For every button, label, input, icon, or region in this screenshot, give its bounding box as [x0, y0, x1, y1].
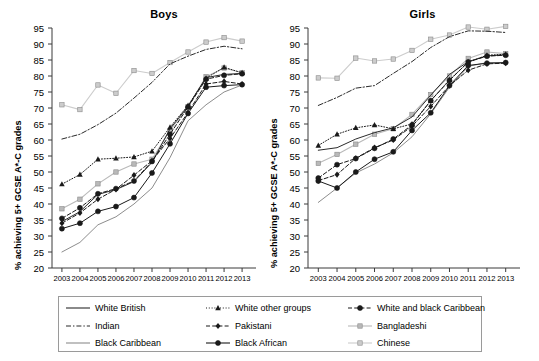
data-point-marker	[503, 24, 507, 28]
data-point-marker	[59, 216, 64, 221]
data-point-marker	[150, 159, 155, 164]
legend-label: Black Caribbean	[95, 338, 161, 348]
y-axis-tick-label: 80	[278, 71, 300, 82]
y-axis-tick-label: 70	[22, 103, 44, 114]
data-point-marker	[60, 207, 64, 211]
data-point-marker	[95, 191, 100, 196]
data-point-marker	[131, 195, 136, 200]
x-axis-tick-label: 2013	[493, 274, 519, 283]
legend-item: Bangladeshi	[347, 317, 489, 334]
y-axis-tick-label: 45	[22, 183, 44, 194]
legend-key-square-icon	[347, 338, 373, 348]
data-point-marker	[447, 83, 452, 88]
legend-key-diamond-icon	[205, 321, 231, 331]
data-point-marker	[77, 205, 82, 210]
data-point-marker	[95, 209, 100, 214]
data-point-marker	[131, 172, 136, 178]
data-point-marker	[216, 322, 221, 328]
data-point-marker	[78, 107, 82, 111]
data-point-marker	[316, 178, 321, 183]
data-point-marker	[168, 141, 173, 146]
data-point-marker	[391, 137, 396, 142]
data-point-marker	[353, 170, 358, 175]
legend-label: Chinese	[377, 338, 410, 348]
data-point-marker	[240, 82, 245, 87]
data-point-marker	[391, 149, 396, 154]
y-axis-tick-label: 75	[22, 87, 44, 98]
data-point-marker	[96, 182, 100, 186]
legend-key-none-icon	[65, 303, 91, 313]
legend-label: Black African	[235, 338, 287, 348]
y-axis-tick-label: 95	[278, 23, 300, 34]
data-point-marker	[113, 204, 118, 209]
data-point-marker	[316, 161, 320, 165]
panel-title-boys: Boys	[0, 8, 298, 20]
data-point-marker	[222, 83, 227, 88]
y-axis-tick-label: 90	[278, 39, 300, 50]
data-point-marker	[96, 83, 100, 87]
legend-item: Chinese	[347, 334, 489, 351]
data-point-marker	[60, 103, 64, 107]
legend-item: Black African	[205, 334, 347, 351]
data-point-marker	[372, 59, 376, 63]
y-axis-tick-label: 80	[22, 71, 44, 82]
legend-item: Pakistani	[205, 317, 347, 334]
legend-item: Indian	[65, 317, 205, 334]
y-axis-tick-label: 30	[278, 231, 300, 242]
y-axis-tick-label: 90	[22, 39, 44, 50]
legend-key-circle-icon	[347, 303, 373, 313]
y-axis-tick-label: 20	[22, 263, 44, 274]
data-point-marker	[204, 85, 209, 90]
data-point-marker	[354, 56, 358, 60]
legend-label: Indian	[95, 321, 120, 331]
y-axis-tick-label: 75	[278, 87, 300, 98]
data-point-marker	[358, 306, 363, 311]
chart-panel-boys: Boys % achieving 5+ GCSE A*-C grades 959…	[0, 0, 268, 295]
data-point-marker	[113, 186, 118, 191]
series-line	[62, 46, 242, 139]
data-point-marker	[391, 57, 395, 61]
data-point-marker	[216, 340, 221, 345]
data-point-marker	[353, 125, 359, 130]
legend-key-triangle-icon	[205, 303, 231, 313]
data-point-marker	[150, 71, 154, 75]
series-line	[62, 73, 242, 221]
chart-svg-boys	[52, 28, 256, 268]
series-line	[62, 85, 242, 252]
data-point-marker	[428, 110, 433, 115]
series-line	[62, 85, 242, 229]
y-axis-tick-label: 40	[22, 199, 44, 210]
data-point-marker	[372, 122, 378, 127]
data-point-marker	[429, 37, 433, 41]
y-axis-tick-label: 35	[278, 215, 300, 226]
legend-key-none-icon	[65, 321, 91, 331]
data-point-marker	[316, 76, 320, 80]
chart-legend: White BritishWhite other groupsWhite and…	[58, 296, 482, 352]
data-point-marker	[215, 305, 221, 310]
data-point-marker	[114, 91, 118, 95]
data-point-marker	[78, 197, 82, 201]
legend-item: White British	[65, 300, 205, 317]
y-axis-tick-label: 85	[278, 55, 300, 66]
data-point-marker	[240, 39, 244, 43]
y-axis-tick-label: 60	[278, 135, 300, 146]
data-point-marker	[150, 170, 155, 175]
legend-label: White and black Caribbean	[377, 303, 485, 313]
data-point-marker	[358, 341, 362, 345]
y-axis-tick-label: 70	[278, 103, 300, 114]
legend-key-square-icon	[347, 321, 373, 331]
data-point-marker	[95, 196, 100, 202]
y-axis-tick-label: 65	[278, 119, 300, 130]
data-point-marker	[410, 112, 414, 116]
series-line	[62, 67, 242, 184]
data-point-marker	[77, 221, 82, 226]
data-point-marker	[186, 111, 191, 116]
data-point-marker	[59, 226, 64, 231]
data-point-marker	[410, 128, 415, 133]
data-point-marker	[335, 162, 340, 167]
data-point-marker	[186, 50, 190, 54]
y-axis-tick-label: 40	[278, 199, 300, 210]
series-line	[318, 55, 505, 150]
y-axis-tick-label: 85	[22, 55, 44, 66]
panel-title-girls: Girls	[262, 8, 539, 20]
